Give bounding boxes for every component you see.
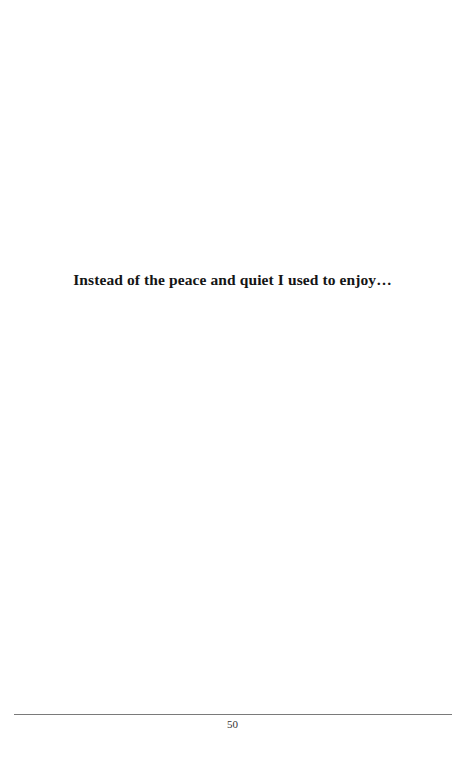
document-page: Instead of the peace and quiet I used to… — [0, 0, 465, 777]
page-number: 50 — [0, 717, 465, 731]
footer-divider — [14, 714, 452, 715]
page-heading: Instead of the peace and quiet I used to… — [0, 270, 465, 290]
